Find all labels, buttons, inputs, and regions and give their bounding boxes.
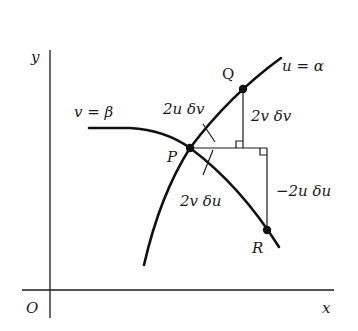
length-r-vertical-label: −2u δu [276,182,331,200]
length-q-vertical-label: 2v δv [250,107,292,125]
point-r [263,226,271,234]
v-curve-label: v = β [74,103,114,121]
x-axis-label: x [322,299,331,317]
curve-u-equals-alpha [144,58,281,265]
point-p-label: P [166,148,178,166]
orthogonal-curves-diagram: y x O v = β u = α P Q R 2u δv 2v δv 2v δ… [0,0,358,331]
point-r-label: R [251,239,263,257]
u-curve-label: u = α [282,57,324,75]
length-pr-label: 2v δu [179,192,221,210]
right-angle-marker-q [236,141,243,148]
curve-v-equals-beta [89,128,279,247]
point-p [186,144,194,152]
right-angle-marker-r [260,148,267,155]
origin-label: O [26,299,38,317]
point-q-label: Q [222,65,234,83]
tick-mark-pq [203,124,215,142]
y-axis-label: y [30,48,40,66]
point-q [239,85,247,93]
tick-mark-pr [203,150,213,175]
length-pq-label: 2u δv [162,100,205,118]
